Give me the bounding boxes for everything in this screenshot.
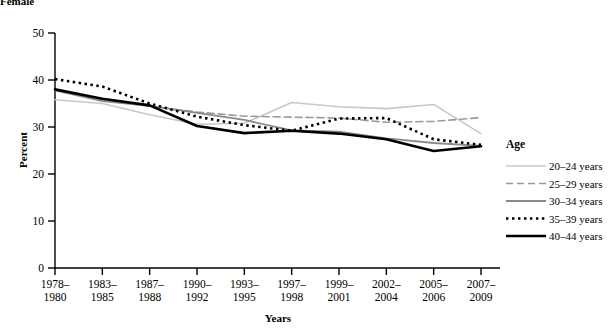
x-tick-label: 2007– xyxy=(467,278,496,290)
chart-figure: Female 01020304050 1978–19801983–1985198… xyxy=(0,0,612,335)
legend-label: 30–34 years xyxy=(549,195,602,207)
legend: Age 20–24 years25–29 years30–34 years35–… xyxy=(506,138,602,242)
y-tick-label: 0 xyxy=(38,262,44,274)
y-tick-label: 30 xyxy=(33,121,45,133)
x-tick-label: 1978– xyxy=(41,278,70,290)
legend-title: Age xyxy=(506,138,525,151)
x-tick-group: 1978–19801983–19851987–19881990–19921993… xyxy=(41,268,496,303)
legend-label: 20–24 years xyxy=(549,160,602,172)
x-tick-label: 1999– xyxy=(325,278,354,290)
x-tick-label: 1995 xyxy=(233,291,256,303)
x-tick-label: 2001 xyxy=(328,291,351,303)
x-tick-label: 2005– xyxy=(419,278,448,290)
series-line xyxy=(55,90,481,145)
x-tick-label: 1988 xyxy=(138,291,161,303)
x-tick-label: 1987– xyxy=(135,278,164,290)
x-tick-label: 1993– xyxy=(230,278,259,290)
series-line xyxy=(55,79,481,145)
x-tick-label: 1990– xyxy=(183,278,212,290)
y-tick-label: 10 xyxy=(33,215,45,227)
y-tick-group: 01020304050 xyxy=(33,27,56,274)
x-tick-label: 2004 xyxy=(375,291,398,303)
x-tick-label: 2006 xyxy=(422,291,445,303)
y-axis-title: Percent xyxy=(17,132,29,168)
x-tick-label: 2002– xyxy=(372,278,401,290)
x-axis-title: Years xyxy=(265,312,292,324)
x-tick-label: 1998 xyxy=(280,291,303,303)
legend-label: 35–39 years xyxy=(549,213,602,225)
y-tick-label: 40 xyxy=(33,74,45,86)
legend-label: 25–29 years xyxy=(549,178,602,190)
figure-cropped-title: Female xyxy=(0,0,120,7)
x-tick-label: 1983– xyxy=(88,278,117,290)
data-series-group xyxy=(55,79,481,151)
x-tick-label: 1997– xyxy=(277,278,306,290)
y-tick-label: 50 xyxy=(33,27,45,39)
y-tick-label: 20 xyxy=(33,168,45,180)
x-tick-label: 1980 xyxy=(44,291,67,303)
legend-entries: 20–24 years25–29 years30–34 years35–39 y… xyxy=(506,160,602,242)
line-chart-canvas: 01020304050 1978–19801983–19851987–19881… xyxy=(0,0,612,335)
x-tick-label: 2009 xyxy=(470,291,493,303)
x-tick-label: 1992 xyxy=(186,291,209,303)
x-tick-label: 1985 xyxy=(91,291,114,303)
legend-label: 40–44 years xyxy=(549,230,602,242)
